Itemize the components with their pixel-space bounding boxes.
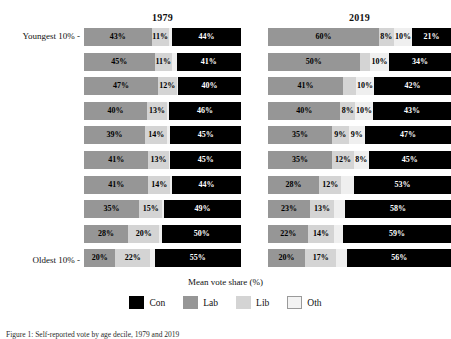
bar-row: 45%11%41% (84, 53, 241, 71)
bar-segment-lab: 20% (268, 249, 305, 267)
bar-row: 41%10%42% (268, 77, 451, 95)
segment-value-label: 20% (278, 254, 294, 262)
segment-value-label: 13% (151, 156, 167, 164)
segment-value-label: 10% (372, 58, 388, 66)
segment-value-label: 10% (395, 33, 411, 41)
bar-row: 35%12%8%45% (268, 151, 451, 169)
bar-segment-con: 43% (373, 102, 451, 120)
legend-label: Con (149, 298, 165, 308)
bar-row: 40%8%10%43% (268, 102, 451, 120)
segment-value-label: 28% (286, 181, 302, 189)
bar-segment-lab: 41% (84, 176, 148, 194)
legend-swatch-oth (287, 296, 302, 309)
panel-title-1979: 1979 (84, 12, 241, 23)
bar-segment-con: 40% (178, 77, 241, 95)
segment-value-label: 8% (342, 107, 354, 115)
segment-value-label: 10% (356, 107, 372, 115)
bar-segment-lab: 45% (84, 53, 155, 71)
bar-segment-lib: 12% (319, 176, 341, 194)
bar-row: 50%10%34% (268, 53, 451, 71)
bar-segment-con: 56% (347, 249, 451, 267)
bar-segment-lab: 47% (84, 77, 158, 95)
legend-swatch-lib (236, 296, 251, 309)
segment-value-label: 8% (380, 33, 392, 41)
bar-segment-oth (336, 249, 347, 267)
segment-value-label: 12% (335, 156, 351, 164)
bar-segment-lib: 17% (305, 249, 336, 267)
segment-value-label: 46% (197, 107, 213, 115)
legend-label: Lib (256, 298, 269, 308)
bar-segment-con: 45% (170, 151, 241, 169)
bar-segment-lab: 28% (84, 225, 128, 243)
legend-swatch-con (129, 296, 144, 309)
bar-row: 41%14%44% (84, 176, 241, 194)
segment-value-label: 35% (292, 131, 308, 139)
bar-segment-lib (343, 77, 356, 95)
legend-item-lab[interactable]: Lab (183, 296, 218, 309)
segment-value-label: 35% (292, 156, 308, 164)
bar-segment-oth: 10% (356, 77, 374, 95)
bar-segment-lib: 13% (310, 200, 334, 218)
bar-row: 28%12%53% (268, 176, 451, 194)
segment-value-label: 40% (296, 107, 312, 115)
figure-caption: Figure 1: Self-reported vote by age deci… (6, 330, 306, 339)
bar-row: 22%14%59% (268, 225, 451, 243)
bar-row: 20%17%56% (268, 249, 451, 267)
legend-item-lib[interactable]: Lib (236, 296, 269, 309)
bar-row: 20%22%55% (84, 249, 241, 267)
bar-segment-oth: 10% (394, 28, 412, 46)
bar-segment-con: 42% (374, 77, 451, 95)
bar-segment-lab: 40% (268, 102, 340, 120)
panel-1979: 43%11%44%45%11%41%47%12%40%40%13%46%39%1… (84, 28, 241, 274)
bar-segment-con: 21% (412, 28, 451, 46)
segment-value-label: 11% (152, 33, 168, 41)
bar-segment-oth (334, 225, 343, 243)
bar-segment-oth: 8% (354, 151, 369, 169)
segment-value-label: 12% (159, 82, 175, 90)
segment-value-label: 45% (111, 58, 127, 66)
bar-rows-2019: 60%8%10%21%50%10%34%41%10%42%40%8%10%43%… (268, 28, 451, 274)
segment-value-label: 9% (334, 131, 346, 139)
segment-value-label: 41% (201, 58, 217, 66)
bar-segment-lab: 41% (268, 77, 343, 95)
segment-value-label: 55% (190, 254, 206, 262)
bar-segment-lib (360, 53, 371, 71)
segment-value-label: 21% (424, 33, 440, 41)
segment-value-label: 56% (391, 254, 407, 262)
bar-segment-lab: 40% (84, 102, 147, 120)
bar-segment-oth: 10% (370, 53, 388, 71)
segment-value-label: 41% (298, 82, 314, 90)
segment-value-label: 13% (314, 205, 330, 213)
bar-segment-lib: 12% (332, 151, 354, 169)
bar-segment-lib: 14% (148, 176, 170, 194)
bar-segment-con: 59% (343, 225, 451, 243)
segment-value-label: 10% (357, 82, 373, 90)
segment-value-label: 40% (107, 107, 123, 115)
bar-segment-lab: 28% (268, 176, 319, 194)
bar-segment-con: 50% (162, 225, 241, 243)
legend-item-con[interactable]: Con (129, 296, 165, 309)
segment-value-label: 58% (390, 205, 406, 213)
bar-segment-lib: 8% (340, 102, 354, 120)
legend-item-oth[interactable]: Oth (287, 296, 321, 309)
bar-segment-con: 55% (155, 249, 241, 267)
bar-row: 35%9%9%47% (268, 126, 451, 144)
bar-segment-lab: 50% (268, 53, 360, 71)
bar-row: 23%13%58% (268, 200, 451, 218)
segment-value-label: 9% (351, 131, 363, 139)
segment-value-label: 39% (107, 131, 123, 139)
bar-segment-con: 44% (172, 28, 241, 46)
segment-value-label: 49% (195, 205, 211, 213)
segment-value-label: 20% (92, 254, 108, 262)
bar-segment-lib: 15% (139, 200, 163, 218)
bar-segment-lab: 35% (268, 151, 332, 169)
segment-value-label: 45% (402, 156, 418, 164)
segment-value-label: 20% (136, 230, 152, 238)
segment-value-label: 14% (151, 181, 167, 189)
segment-value-label: 45% (198, 156, 214, 164)
bar-segment-lab: 22% (268, 225, 308, 243)
bar-segment-lib: 11% (152, 28, 169, 46)
segment-value-label: 34% (412, 58, 428, 66)
bar-segment-con: 44% (172, 176, 241, 194)
segment-value-label: 59% (389, 230, 405, 238)
